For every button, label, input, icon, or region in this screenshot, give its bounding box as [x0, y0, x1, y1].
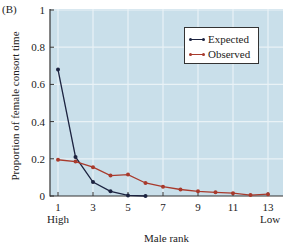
legend-swatch-observed-icon	[189, 50, 205, 58]
x-end-label-low: Low	[260, 213, 280, 225]
x-axis-label-wrap: Male rank	[0, 232, 289, 244]
legend-item-expected: Expected	[189, 32, 249, 46]
svg-text:11: 11	[228, 201, 239, 213]
legend-label-expected: Expected	[208, 33, 249, 45]
svg-text:0.8: 0.8	[31, 41, 45, 53]
data-point-observed	[231, 191, 235, 195]
data-point-observed	[196, 189, 200, 193]
data-point-observed	[214, 190, 218, 194]
x-end-label-high: High	[47, 213, 69, 225]
svg-text:7: 7	[160, 201, 166, 213]
data-point-observed	[249, 193, 253, 197]
data-point-observed	[109, 174, 113, 178]
panel-label: (B)	[2, 3, 17, 15]
svg-text:9: 9	[195, 201, 201, 213]
legend-label-observed: Observed	[208, 48, 250, 60]
svg-text:3: 3	[90, 201, 96, 213]
svg-text:1: 1	[55, 201, 61, 213]
data-point-observed	[144, 181, 148, 185]
data-point-observed	[91, 165, 95, 169]
data-point-expected	[74, 155, 78, 159]
data-point-observed	[266, 192, 270, 196]
legend-swatch-expected-icon	[189, 35, 205, 43]
svg-text:0.2: 0.2	[31, 153, 45, 165]
svg-text:13: 13	[263, 201, 275, 213]
svg-text:5: 5	[125, 201, 131, 213]
svg-text:0.6: 0.6	[31, 78, 45, 90]
data-point-observed	[179, 187, 183, 191]
x-axis-label: Male rank	[144, 232, 189, 244]
legend-item-observed: Observed	[189, 47, 250, 61]
data-point-expected	[144, 194, 148, 198]
y-axis-label: Proportion of female consort time	[9, 31, 21, 181]
data-point-expected	[126, 193, 130, 197]
data-point-observed	[161, 185, 165, 189]
data-point-observed	[74, 160, 78, 164]
data-point-observed	[126, 173, 130, 177]
legend: Expected Observed	[184, 27, 259, 64]
svg-text:0: 0	[40, 190, 46, 202]
svg-text:0.4: 0.4	[31, 116, 45, 128]
svg-text:1: 1	[40, 4, 46, 16]
data-point-expected	[56, 68, 60, 72]
data-point-expected	[91, 180, 95, 184]
data-point-expected	[109, 189, 113, 193]
data-point-observed	[56, 158, 60, 162]
